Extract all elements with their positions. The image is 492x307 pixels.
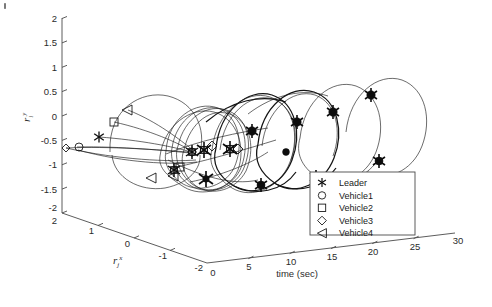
helix-marker-t20-top [327,105,339,119]
z-tick-0: 0 [210,267,215,278]
y-tick-label: -1 [49,159,57,170]
x-axis-ticks: 2 1 0 -1 -2 [52,215,203,273]
y-tick-0p5: 0.5 [44,86,67,97]
y-tick-1p5: 1.5 [44,37,67,48]
x-tick-1: 1 [89,223,103,236]
z-tick-label: 20 [368,246,379,257]
y-tick-neg0p5: -0.5 [41,135,67,146]
y-tick-1: 1 [52,62,67,73]
x-tick-label: 1 [89,225,94,236]
x-tick-0: 0 [125,236,139,249]
legend[interactable]: Leader Vehicle1 Vehicle2 Vehicle3 Vehicl… [310,172,415,238]
y-tick-neg1: -1 [49,159,67,170]
cluster-marker-5 [199,171,213,187]
vehicle4-leadin [128,110,193,150]
y-tick-label: -1.5 [41,184,57,195]
z-tick-label: 5 [246,261,251,272]
x-tick-neg1: -1 [159,248,175,261]
legend-label: Leader [339,178,367,188]
legend-label: Vehicle3 [339,216,373,226]
x-tick-label: 2 [52,215,57,226]
y-tick-2: 2 [52,13,67,24]
y-axis-title-sub: i [27,116,35,118]
vehicle2-leadin [114,122,192,151]
x-tick-label: 0 [125,238,130,249]
plot-canvas: 2 1.5 1 0.5 0 -0.5 [0,0,492,307]
svg-text:riy: riy [20,112,35,122]
scan-artifact [4,3,6,9]
helix-loop-3 [299,84,381,182]
x-tick-label: -1 [159,250,167,261]
y-tick-label: 0 [52,111,57,122]
y-tick-label: 2 [52,13,57,24]
helix-loop-4 [346,78,427,175]
z-tick-label: 15 [327,251,338,262]
helix-marker-t24-top [365,88,377,102]
vehicle4-mid-marker [146,173,156,183]
figure-root: 2 1.5 1 0.5 0 -0.5 [0,0,492,307]
helix-marker-t22-mid [283,149,290,156]
cluster-marker-1 [186,145,198,159]
x-tick-label: -2 [195,262,203,273]
helix-marker-t16-top [291,115,303,129]
y-tick-label: 0.5 [44,86,57,97]
helix-connector-top-1 [206,99,286,122]
z-tick-label: 30 [453,235,464,246]
z-tick-label: 0 [210,267,215,278]
y-axis-title-sup: y [20,112,28,117]
helix-marker-t26-bottom [373,154,385,168]
y-tick-0: 0 [52,111,67,122]
y-tick-label: 1 [52,62,57,73]
y-tick-label: -2 [49,202,57,213]
x-axis-title-sup: x [118,254,123,262]
x-tick-neg2: -2 [195,262,203,273]
svg-text:rjx: rjx [113,254,123,269]
legend-label: Vehicle4 [339,228,373,238]
y-tick-label: 1.5 [44,37,57,48]
y-tick-neg1p5: -1.5 [41,184,67,195]
z-tick-label: 25 [410,241,421,252]
x-axis-title-sub: j [116,261,119,269]
y-tick-neg2: -2 [49,202,67,213]
x-tick-2: 2 [52,215,57,226]
z-axis-title: time (sec) [276,268,318,279]
legend-label: Vehicle1 [339,191,373,201]
y-tick-label: -0.5 [41,135,57,146]
initial-transient-lines [66,110,197,163]
legend-label: Vehicle2 [339,203,373,213]
x-axis-title: rjx [113,254,123,269]
z-tick-5: 5 [246,256,253,272]
z-tick-30: 30 [453,235,464,246]
y-axis-ticks: 2 1.5 1 0.5 0 -0.5 [41,13,67,213]
z-tick-label: 10 [286,256,297,267]
y-axis-title: riy [20,112,35,122]
z-axis-ticks: 0 5 10 15 20 25 30 [210,235,463,278]
